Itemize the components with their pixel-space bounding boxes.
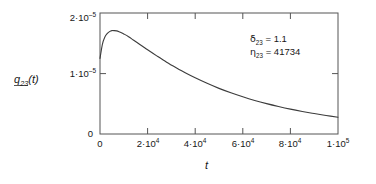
x-tick-exponent: 4 (156, 137, 160, 144)
x-tick-label-0: 0 (86, 139, 114, 149)
chart-figure: q23(t) 2·10–5 1·10–5 0 (0, 0, 376, 184)
annotation-line-delta: δ23 = 1.1 (250, 33, 300, 46)
x-axis-ticks-top (148, 13, 291, 19)
data-curve (100, 31, 338, 118)
x-tick-label-8e4: 8·104 (270, 139, 310, 149)
x-tick-base: 10 (240, 138, 251, 149)
x-tick-base: 10 (335, 138, 346, 149)
delta-value: 1.1 (274, 33, 287, 44)
x-tick-exponent: 4 (298, 137, 302, 144)
plot-frame (100, 13, 338, 134)
x-axis-title: t (205, 160, 208, 171)
x-tick-label-6e4: 6·104 (223, 139, 263, 149)
x-axis-ticks (148, 128, 291, 134)
annotation-line-eta: η23 = 41734 (250, 46, 300, 59)
x-tick-base: 10 (287, 138, 298, 149)
x-tick-exponent: 4 (203, 137, 207, 144)
x-tick-mantissa: 0 (97, 138, 102, 149)
plot-area (0, 0, 376, 184)
x-tick-base: 10 (192, 138, 203, 149)
delta-subscript: 23 (256, 39, 263, 46)
x-tick-label-2e4: 2·104 (128, 139, 168, 149)
x-tick-exponent: 4 (251, 137, 255, 144)
x-tick-label-1e5: 1·105 (318, 139, 358, 149)
x-tick-base: 10 (145, 138, 156, 149)
delta-equals: = (265, 33, 271, 44)
eta-value: 41734 (274, 46, 300, 57)
eta-subscript: 23 (256, 51, 263, 58)
x-tick-label-4e4: 4·104 (175, 139, 215, 149)
parameter-annotation: δ23 = 1.1 η23 = 41734 (250, 33, 300, 58)
x-tick-exponent: 5 (346, 137, 350, 144)
eta-equals: = (266, 46, 272, 57)
